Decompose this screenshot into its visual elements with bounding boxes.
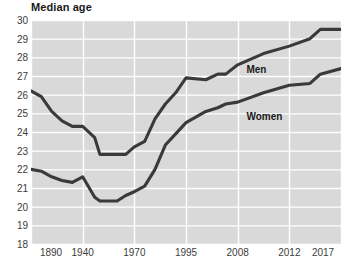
y-axis-tick-label: 20 <box>4 201 28 212</box>
plot-area <box>31 20 341 244</box>
y-axis-tick-label: 19 <box>4 220 28 231</box>
y-axis-tick-label: 21 <box>4 183 28 194</box>
y-axis-tick-label: 30 <box>4 15 28 26</box>
series-label-women: Women <box>246 111 282 122</box>
y-axis-tick-label: 23 <box>4 145 28 156</box>
x-axis-tick-label: 1995 <box>175 247 197 258</box>
series-lines <box>31 20 341 244</box>
y-axis-tick-label: 29 <box>4 33 28 44</box>
y-axis-tick-label: 27 <box>4 71 28 82</box>
series-line-women <box>31 69 341 202</box>
y-axis-tick-label: 28 <box>4 52 28 63</box>
y-axis-tick-label: 25 <box>4 108 28 119</box>
series-label-men: Men <box>246 64 266 75</box>
median-age-chart: Median age 18192021222324252627282930 18… <box>0 0 361 278</box>
x-axis-tick-label: 2012 <box>278 247 300 258</box>
series-line-men <box>31 29 341 154</box>
x-axis-tick-label: 1890 <box>40 247 62 258</box>
y-axis-tick-label: 18 <box>4 239 28 250</box>
y-axis-tick-label: 22 <box>4 164 28 175</box>
x-axis-tick-label: 2017 <box>312 247 334 258</box>
x-axis-tick-label: 1970 <box>123 247 145 258</box>
y-axis-tick-label: 24 <box>4 127 28 138</box>
x-axis-tick-label: 1940 <box>72 247 94 258</box>
chart-title: Median age <box>31 1 92 13</box>
x-axis-tick-label: 2008 <box>227 247 249 258</box>
y-axis-tick-label: 26 <box>4 89 28 100</box>
